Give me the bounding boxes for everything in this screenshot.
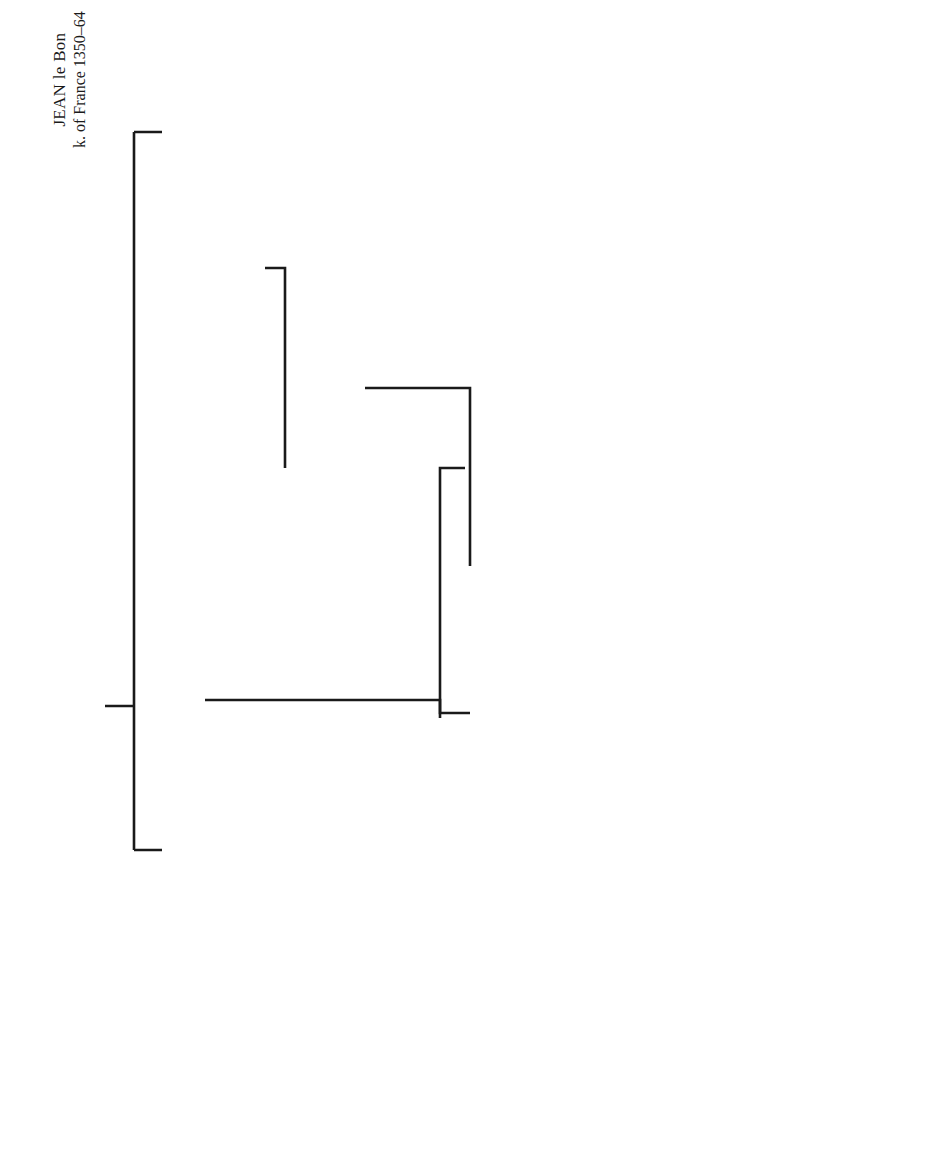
line-jean-children [105,132,162,850]
tree-connector-lines [0,0,933,1168]
line-yolande-juan-to-child [365,388,470,566]
line-aux [440,468,465,718]
family-tree-diagram: JEAN le Bon k. of France 1350–64 [0,0,933,1168]
person-jean-le-bon: JEAN le Bon k. of France 1350–64 [50,11,90,148]
line-marie-robert-to-yolande [265,268,285,468]
line-louis-i-to-louis-ii [205,700,470,713]
